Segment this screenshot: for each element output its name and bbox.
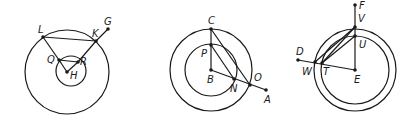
point-U <box>353 34 357 38</box>
label-H: H <box>70 70 78 81</box>
label-B: B <box>207 74 214 85</box>
label-R: R <box>80 56 87 67</box>
label-E: E <box>354 74 361 85</box>
point-P <box>209 43 213 47</box>
point-L <box>41 35 45 39</box>
label-D: D <box>296 46 304 57</box>
point-C <box>209 27 213 31</box>
label-P: P <box>201 48 208 59</box>
point-A <box>264 88 268 92</box>
label-Q: Q <box>47 54 55 65</box>
label-F: F <box>359 0 365 11</box>
label-V: V <box>358 13 366 24</box>
point-G <box>106 27 110 31</box>
segment-LK <box>43 37 96 41</box>
point-K <box>94 39 98 43</box>
label-T: T <box>323 66 330 77</box>
label-W: W <box>302 66 313 77</box>
point-W <box>313 60 317 64</box>
point-N <box>232 77 236 81</box>
label-L: L <box>38 24 44 35</box>
point-E <box>353 68 357 72</box>
label-G: G <box>104 16 112 27</box>
geometry-diagrams: L K G Q R H C P B N O A <box>0 0 417 124</box>
point-T <box>320 61 324 65</box>
label-C: C <box>208 15 215 26</box>
segment-QR <box>59 60 78 62</box>
point-B <box>209 68 213 72</box>
point-V <box>353 25 357 29</box>
label-O: O <box>254 72 262 83</box>
point-F <box>353 3 357 7</box>
point-Q <box>57 58 61 62</box>
label-N: N <box>230 83 238 94</box>
figure-1: L K G Q R H <box>25 16 112 114</box>
point-O <box>248 83 252 87</box>
figure-3: F V U D W T E <box>296 0 396 111</box>
segment-WV <box>315 27 355 62</box>
segment-QH <box>59 60 67 72</box>
label-U: U <box>359 39 367 50</box>
point-D <box>296 58 300 62</box>
figure-2: C P B N O A <box>170 15 271 111</box>
point-H <box>65 70 69 74</box>
label-K: K <box>92 28 100 39</box>
label-A: A <box>263 94 271 105</box>
